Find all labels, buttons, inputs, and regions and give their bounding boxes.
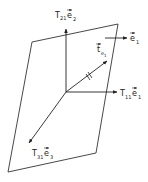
label-e1: e 1 <box>130 33 139 45</box>
label-t11-e1: T 11 e 1 <box>119 88 141 100</box>
svg-text:t: t <box>97 45 100 54</box>
svg-text:21: 21 <box>60 15 66 21</box>
svg-text:11: 11 <box>125 94 131 100</box>
svg-text:3: 3 <box>50 154 53 160</box>
svg-text:e: e <box>130 34 135 43</box>
label-t-e1: t e 1 <box>96 44 107 58</box>
svg-text:31: 31 <box>37 154 43 160</box>
svg-text:e: e <box>44 149 49 158</box>
svg-text:2: 2 <box>73 16 76 22</box>
svg-text:1: 1 <box>104 53 107 58</box>
svg-text:1: 1 <box>136 39 139 45</box>
stress-diagram: T 21 e 2 e 1 t e 1 T 11 e 1 T 31 e 3 <box>0 0 148 182</box>
vector-t31-arrow <box>29 92 66 143</box>
svg-text:e: e <box>67 11 72 20</box>
label-t31-e3: T 31 e 3 <box>31 148 53 160</box>
label-t21-e2: T 21 e 2 <box>54 10 76 22</box>
svg-text:e: e <box>132 89 137 98</box>
svg-text:1: 1 <box>138 94 141 100</box>
vector-te1-arrow <box>66 61 107 92</box>
plane-parallelogram <box>8 24 118 172</box>
